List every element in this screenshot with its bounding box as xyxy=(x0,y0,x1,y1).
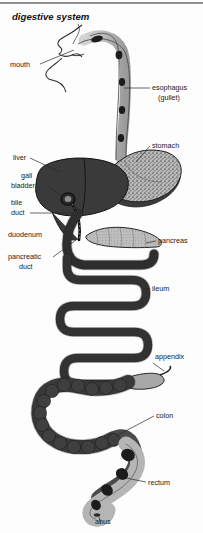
label-bile: bile xyxy=(11,198,22,207)
label-appendix: appendix xyxy=(155,352,185,361)
label-pancreatic-duct: duct xyxy=(19,262,33,271)
diagram-title: digestive system xyxy=(12,11,90,22)
label-rectum: rectum xyxy=(148,478,170,487)
label-colon: colon xyxy=(156,411,173,420)
label-duodenum: duodenum xyxy=(8,230,42,239)
label-liver: liver xyxy=(13,153,27,162)
bolus xyxy=(119,106,125,114)
label-bile-duct: duct xyxy=(11,208,25,217)
label-pancreatic: pancreatic xyxy=(8,252,42,261)
bolus xyxy=(118,134,124,142)
label-ileum: ileum xyxy=(152,284,169,293)
bolus xyxy=(119,78,125,86)
label-stomach: stomach xyxy=(152,141,179,150)
label-anus: ahus xyxy=(95,517,111,526)
label-mouth: mouth xyxy=(10,60,30,69)
digestive-system-diagram: digestive system xyxy=(0,0,203,533)
label-pancreas: pancreas xyxy=(158,236,188,245)
label-esophagus-alt: (gullet) xyxy=(158,93,180,102)
bolus xyxy=(116,51,123,59)
label-gall: gall xyxy=(21,171,33,180)
label-bladder: bladder xyxy=(11,181,36,190)
label-esophagus: esophagus xyxy=(152,83,188,92)
